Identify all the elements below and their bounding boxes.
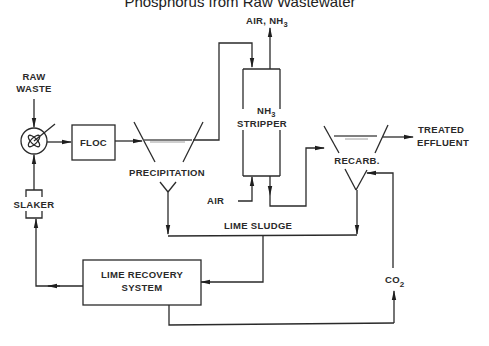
lime-sludge-label: LIME SLUDGE bbox=[224, 220, 292, 231]
rapid-mix-tank-icon bbox=[21, 124, 55, 154]
stripper-to-recarb-line bbox=[270, 148, 324, 206]
air-nh3-label: AIR, NH3 bbox=[246, 15, 288, 29]
diagram-title: Phosphorus from Raw Wastewater bbox=[124, 0, 355, 10]
air-label: AIR bbox=[207, 195, 224, 206]
raw-waste-label: RAW bbox=[22, 71, 45, 82]
recarb-label: RECARB. bbox=[334, 155, 379, 166]
lime-recovery-label-2: SYSTEM bbox=[122, 282, 163, 293]
co2-inlet-line bbox=[367, 173, 393, 268]
air-inlet-line bbox=[238, 177, 252, 201]
co2-label: CO2 bbox=[385, 274, 405, 289]
sludge-to-recovery-line bbox=[201, 236, 263, 282]
slaker-label: SLAKER bbox=[14, 199, 55, 210]
treated-effluent-label-2: EFFLUENT bbox=[417, 137, 469, 148]
stripper-label-nh3: NH3 bbox=[257, 105, 276, 119]
lime-sludge-header bbox=[168, 235, 357, 236]
stripper-label: STRIPPER bbox=[237, 118, 287, 129]
precipitation-clarifier bbox=[134, 122, 203, 192]
process-flow-diagram: Phosphorus from Raw Wastewater RAW WASTE… bbox=[0, 0, 489, 346]
treated-effluent-label: TREATED bbox=[418, 124, 464, 135]
recovery-to-co2-line bbox=[169, 305, 394, 325]
raw-waste-label-2: WASTE bbox=[16, 83, 51, 94]
lime-recovery-label: LIME RECOVERY bbox=[101, 269, 184, 280]
floc-label: FLOC bbox=[80, 137, 107, 148]
recovery-to-slaker-line bbox=[36, 219, 83, 286]
precipitation-label: PRECIPITATION bbox=[129, 167, 205, 178]
